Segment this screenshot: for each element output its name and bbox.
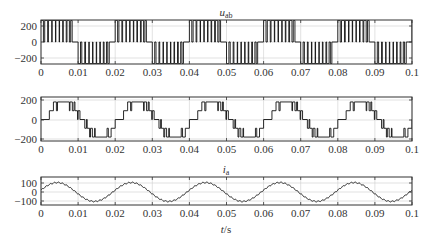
x-tick-label: 0.03 <box>143 143 163 155</box>
x-tick-label: 0.07 <box>291 66 311 78</box>
x-tick-label: 0 <box>38 66 44 78</box>
x-axis-label: t/s <box>221 223 231 235</box>
uab-plot: 00.010.020.030.040.050.060.070.080.090.1… <box>14 6 419 78</box>
x-tick-label: 0.08 <box>328 207 348 219</box>
x-tick-label: 0.05 <box>217 143 237 155</box>
y-tick-label: 0 <box>32 36 38 48</box>
subplot-title: uab <box>219 6 232 20</box>
x-tick-label: 0.1 <box>405 66 419 78</box>
x-tick-label: 0.08 <box>328 143 348 155</box>
uan-plot: 00.010.020.030.040.050.060.070.080.090.1… <box>14 94 419 155</box>
x-tick-label: 0.06 <box>254 66 274 78</box>
x-tick-label: 0.05 <box>217 207 237 219</box>
x-tick-label: 0.06 <box>254 207 274 219</box>
x-tick-label: 0.02 <box>106 143 125 155</box>
x-tick-label: 0.02 <box>106 66 125 78</box>
x-tick-label: 0.03 <box>143 66 163 78</box>
subplot-title: ia <box>223 163 230 177</box>
x-tick-label: 0.05 <box>217 66 237 78</box>
x-tick-label: 0 <box>38 143 44 155</box>
figure: 00.010.020.030.040.050.060.070.080.090.1… <box>0 0 428 245</box>
x-tick-label: 0.08 <box>328 66 348 78</box>
y-tick-label: −100 <box>14 195 37 207</box>
x-tick-label: 0.01 <box>68 66 87 78</box>
x-tick-label: 0.09 <box>365 143 385 155</box>
x-tick-label: 0.04 <box>180 143 200 155</box>
x-tick-label: 0.07 <box>291 143 311 155</box>
x-tick-label: 0.1 <box>405 143 419 155</box>
x-tick-label: 0.09 <box>365 207 385 219</box>
y-tick-label: −200 <box>14 133 37 145</box>
y-tick-label: 200 <box>21 94 38 106</box>
y-tick-label: 200 <box>21 20 38 32</box>
x-tick-label: 0.01 <box>68 207 87 219</box>
x-tick-label: 0.04 <box>180 207 200 219</box>
x-tick-label: 0.1 <box>405 207 419 219</box>
x-tick-label: 0.06 <box>254 143 274 155</box>
y-tick-label: −200 <box>14 52 37 64</box>
x-tick-label: 0.03 <box>143 207 163 219</box>
x-tick-label: 0.07 <box>291 207 311 219</box>
x-tick-label: 0 <box>38 207 44 219</box>
y-tick-label: 0 <box>32 114 38 126</box>
x-tick-label: 0.09 <box>365 66 385 78</box>
x-tick-label: 0.02 <box>106 207 125 219</box>
ia-plot: 00.010.020.030.040.050.060.070.080.090.1… <box>14 163 419 235</box>
x-tick-label: 0.01 <box>68 143 87 155</box>
x-tick-label: 0.04 <box>180 66 200 78</box>
